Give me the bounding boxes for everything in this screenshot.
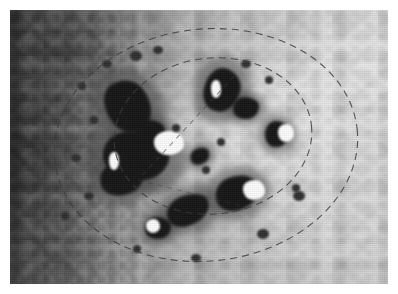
interior-dashed-chord [138,76,234,180]
annotation-overlay [10,10,388,284]
secondary-dashed-chord [138,180,242,206]
figure-root [0,0,398,294]
inner-dashed-ellipse [106,48,319,224]
outer-dashed-ellipse [43,14,370,277]
surface-photograph [10,10,388,284]
